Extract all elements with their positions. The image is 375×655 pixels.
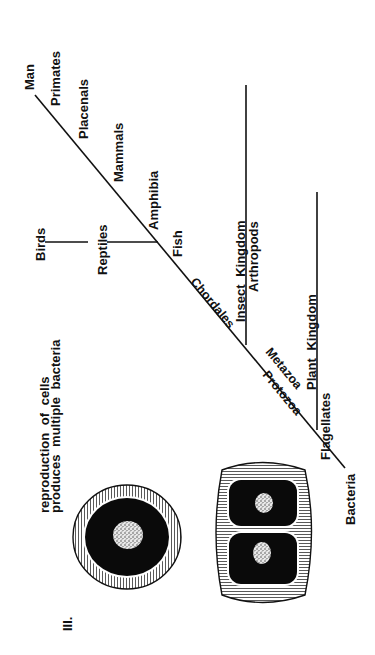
label-flagellates: Flagellates (318, 393, 333, 460)
label-arthropods: Arthropods (246, 221, 261, 292)
label-mammals: Mammals (111, 123, 126, 182)
caption-line-2: produces multiple bacteria (48, 339, 63, 513)
label-placenals: Placenals (76, 79, 91, 139)
label-chordales: Chordales (188, 275, 238, 331)
label-man: Man (22, 64, 37, 90)
nucleus-icon (253, 542, 271, 564)
label-plant-kingdom: Plant Kingdom (304, 294, 319, 390)
label-amphibia: Amphibia (146, 170, 161, 230)
single-cell-illustration (73, 485, 181, 589)
nucleus-icon (113, 521, 143, 549)
nucleus-icon (255, 493, 273, 513)
label-bacteria: Bacteria (343, 473, 358, 525)
label-primates: Primates (48, 51, 63, 106)
label-fish: Fish (170, 230, 185, 257)
label-reptiles: Reptiles (95, 224, 110, 275)
section-label: III. (60, 617, 75, 631)
evolution-tree-diagram: Man Bacteria Primates Placenals Mammals … (0, 0, 375, 655)
label-birds: Birds (33, 228, 48, 261)
dividing-cell-illustration (216, 463, 312, 603)
